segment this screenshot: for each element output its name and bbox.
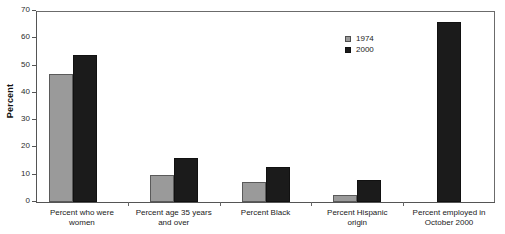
bar-chart: Percent 010203040506070 Percent who were… [0, 0, 505, 234]
legend-label: 1974 [356, 33, 374, 44]
chart-legend: 19742000 [345, 33, 374, 55]
gray-square-swatch [345, 36, 351, 42]
x-tick-divider [128, 202, 129, 206]
bar-1974-cat1 [49, 74, 73, 202]
black-square-swatch [345, 47, 351, 53]
x-axis-label-3: Percent Black [220, 208, 312, 218]
legend-entry-1974: 1974 [345, 33, 374, 44]
bar-2000-cat3 [266, 167, 290, 202]
x-axis-label-5: Percent employed in October 2000 [403, 208, 495, 228]
bar-2000-cat1 [73, 55, 97, 202]
bar-1974-cat4 [333, 195, 357, 202]
x-axis-label-4: Percent Hispanic origin [311, 208, 403, 228]
bars-layer [0, 0, 505, 234]
x-axis-label-1: Percent who were women [36, 208, 128, 228]
legend-label: 2000 [356, 44, 374, 55]
bar-2000-cat2 [174, 158, 198, 202]
x-tick-divider [403, 202, 404, 206]
x-tick-divider [311, 202, 312, 206]
bar-2000-cat5 [437, 22, 461, 202]
bar-2000-cat4 [357, 180, 381, 202]
bar-1974-cat2 [150, 175, 174, 202]
x-axis-label-2: Percent age 35 years and over [128, 208, 220, 228]
legend-entry-2000: 2000 [345, 44, 374, 55]
x-tick-divider [220, 202, 221, 206]
bar-1974-cat3 [242, 182, 266, 202]
